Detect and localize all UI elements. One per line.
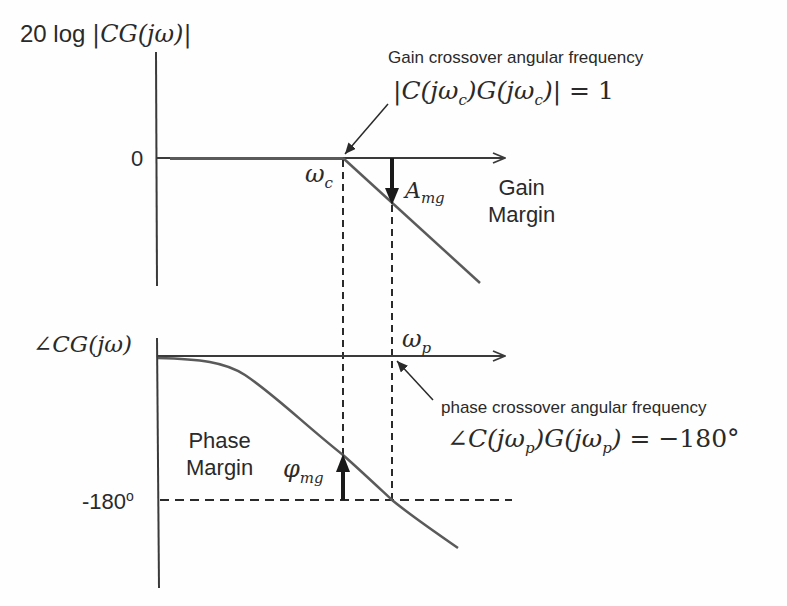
phase-margin-label-line1: Phase — [186, 427, 253, 454]
bode-diagram: 20 log |CG(jω)| 0 ωc Amg Gain Margin Gai… — [0, 0, 787, 606]
phase-y-axis-label: ∠CG(jω) — [33, 331, 132, 357]
omega-p-label: ωp — [402, 325, 431, 357]
magnitude-rolloff-line — [343, 158, 480, 283]
gain-crossover-equation: |C(jωc)G(jωc)| = 1 — [393, 76, 614, 109]
phase-margin-label: Phase Margin — [186, 427, 253, 481]
gain-crossover-title: Gain crossover angular frequency — [388, 48, 643, 68]
y-label-prefix: 20 log — [20, 20, 92, 47]
minus180-tick-label: -180o — [82, 488, 134, 515]
y-label-math: |CG(jω)| — [92, 20, 191, 48]
phase-margin-symbol: φmg — [283, 455, 324, 487]
phase-crossover-pointer — [397, 361, 433, 400]
gain-crossover-pointer — [345, 104, 388, 154]
gain-margin-label-line2: Margin — [488, 201, 555, 228]
omega-c-label: ωc — [305, 160, 333, 192]
gain-margin-arrowhead — [385, 188, 399, 205]
magnitude-y-axis — [156, 52, 157, 286]
gain-margin-label: Gain Margin — [488, 174, 555, 228]
phase-margin-arrowhead — [336, 454, 350, 472]
phase-y-axis — [157, 338, 159, 588]
phase-crossover-title: phase crossover angular frequency — [441, 398, 707, 418]
gain-margin-label-line1: Gain — [488, 174, 555, 201]
magnitude-y-axis-label: 20 log |CG(jω)| — [20, 20, 192, 48]
gain-margin-symbol: Amg — [405, 178, 445, 207]
phase-crossover-equation: ∠C(jωp)G(jωp) = −180° — [447, 424, 740, 457]
zero-db-tick-label: 0 — [131, 146, 143, 172]
phase-margin-label-line2: Margin — [186, 454, 253, 481]
